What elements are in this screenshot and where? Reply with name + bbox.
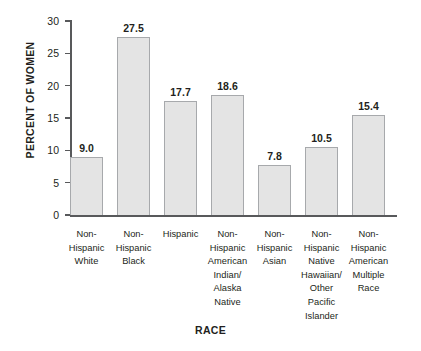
category-label-line: Hawaiian/ <box>297 269 346 283</box>
bar-chart: PERCENT OF WOMEN 051015202530 9.027.517.… <box>0 0 421 351</box>
bar <box>211 95 244 215</box>
category-label-line: Indian/ <box>203 269 252 283</box>
category-label-line: Non- <box>250 228 299 242</box>
category-label: Non-HispanicNativeHawaiian/OtherPacificI… <box>297 228 346 323</box>
category-label-line: Hispanic <box>297 242 346 256</box>
category-label-line: Non- <box>62 228 111 242</box>
category-label-line: Non- <box>203 228 252 242</box>
x-axis-line <box>70 215 397 217</box>
category-label-line: Hispanic <box>109 242 158 256</box>
category-label-line: Native <box>203 296 252 310</box>
y-tick-label: 20 <box>33 81 59 92</box>
bar-value-label: 27.5 <box>107 23 160 34</box>
category-label-line: Multiple <box>344 269 393 283</box>
x-axis-title: RACE <box>0 324 421 336</box>
category-label-line: White <box>62 255 111 269</box>
category-label: Non-HispanicWhite <box>62 228 111 269</box>
category-label-line: Alaska <box>203 282 252 296</box>
category-label-line: American <box>344 255 393 269</box>
category-label-line: Hispanic <box>156 228 205 242</box>
y-axis-title: PERCENT OF WOMEN <box>24 10 36 190</box>
category-label-line: Islander <box>297 310 346 324</box>
y-tick-mark <box>65 85 70 87</box>
category-label-line: Non- <box>109 228 158 242</box>
bar-value-label: 7.8 <box>248 151 301 162</box>
bar <box>352 115 385 215</box>
y-tick-mark <box>65 53 70 55</box>
bar <box>164 101 197 215</box>
y-tick-label: 0 <box>33 210 59 221</box>
category-label: Non-HispanicBlack <box>109 228 158 269</box>
bar-value-label: 10.5 <box>295 133 348 144</box>
category-label: Non-HispanicAmericanIndian/AlaskaNative <box>203 228 252 310</box>
y-tick-label: 25 <box>33 48 59 59</box>
category-label-line: Hispanic <box>203 242 252 256</box>
y-tick-label: 15 <box>33 113 59 124</box>
bar <box>70 157 103 215</box>
y-tick-mark <box>65 20 70 22</box>
category-label-line: Non- <box>344 228 393 242</box>
category-label-line: Other <box>297 282 346 296</box>
category-label-line: American <box>203 255 252 269</box>
category-label-line: Hispanic <box>250 242 299 256</box>
category-label-line: Native <box>297 255 346 269</box>
y-tick-label: 30 <box>33 16 59 27</box>
bar <box>117 37 150 215</box>
category-label-line: Hispanic <box>62 242 111 256</box>
bar <box>258 165 291 215</box>
bar-value-label: 15.4 <box>342 101 395 112</box>
bar-value-label: 17.7 <box>154 87 207 98</box>
category-label: Hispanic <box>156 228 205 242</box>
y-tick-label: 5 <box>33 178 59 189</box>
bar-value-label: 18.6 <box>201 81 254 92</box>
category-label-line: Hispanic <box>344 242 393 256</box>
category-label-line: Non- <box>297 228 346 242</box>
category-label-line: Race <box>344 282 393 296</box>
y-tick-mark <box>65 117 70 119</box>
y-tick-label: 10 <box>33 145 59 156</box>
category-label-line: Asian <box>250 255 299 269</box>
bar-value-label: 9.0 <box>60 143 113 154</box>
category-label-line: Pacific <box>297 296 346 310</box>
category-label-line: Black <box>109 255 158 269</box>
category-label: Non-HispanicAmericanMultipleRace <box>344 228 393 296</box>
bar <box>305 147 338 215</box>
category-label: Non-HispanicAsian <box>250 228 299 269</box>
